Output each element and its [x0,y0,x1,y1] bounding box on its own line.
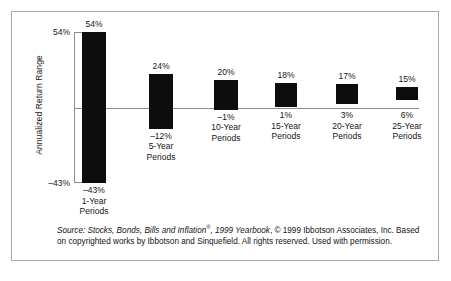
bar-group: 15%6%25-YearPeriods [396,12,418,212]
source-note-yearbook: , 1999 Yearbook [210,226,270,235]
bar-group: 24%–12%5-YearPeriods [149,12,173,212]
chart-figure: Annualized Return Range 54% –43% 54%–43%… [0,0,451,281]
bar-low-value-label: 6% [369,110,445,121]
bar-category-label: 6%25-YearPeriods [369,110,445,142]
bar [82,32,106,183]
bar [275,83,297,107]
bar [336,84,358,104]
bar-category-line1: 25-Year [369,121,445,132]
bar-category-label: –43%1-YearPeriods [56,185,132,217]
bar-category-line2: Periods [56,206,132,217]
bar-group: 17%3%20-YearPeriods [336,12,358,212]
source-note-line3: Used with permission. [312,237,392,246]
bar-high-value-label: 18% [251,70,321,80]
bar-low-value-label: –43% [56,185,132,196]
bar-high-value-label: 54% [59,19,129,29]
bar-group: 18%1%15-YearPeriods [275,12,297,212]
bar [214,80,238,110]
bar-group: 20%–1%10-YearPeriods [214,12,238,212]
bar-category-line2: Periods [123,152,199,163]
bar-series-container: 54%–43%1-YearPeriods24%–12%5-YearPeriods… [12,12,440,212]
bar-high-value-label: 24% [126,61,196,71]
source-note-lead: Source: Stocks, Bonds, Bills and Inflati… [57,226,206,235]
bar-category-line1: 1-Year [56,196,132,207]
source-note-copyright: , © 1999 Ibbotson Associates, [270,226,378,235]
bar-group: 54%–43%1-YearPeriods [82,12,106,212]
bar [396,87,418,100]
source-note: Source: Stocks, Bonds, Bills and Inflati… [57,225,429,248]
bar-category-line2: Periods [369,131,445,142]
bar [149,74,173,129]
bar-high-value-label: 15% [372,74,442,84]
figure-frame: Annualized Return Range 54% –43% 54%–43%… [11,11,439,261]
